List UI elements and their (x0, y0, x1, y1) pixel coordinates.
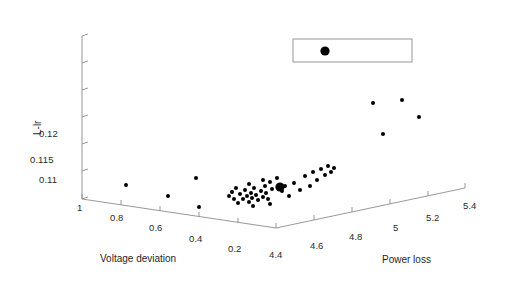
data-point (247, 182, 251, 186)
data-point (232, 197, 236, 201)
data-point (227, 194, 231, 198)
data-point (332, 166, 336, 170)
x-tick-label-3: 0.4 (189, 233, 203, 244)
data-point (250, 196, 254, 200)
y-tick-label-5: 5.4 (463, 200, 477, 211)
data-point (243, 188, 247, 192)
data-point-group (124, 98, 421, 209)
data-point (247, 200, 251, 204)
data-point (268, 202, 272, 206)
y-tick-label-0: 4.4 (269, 249, 283, 260)
y-tick-label-2: 4.8 (349, 231, 363, 242)
z-tick-label-2: 0.11 (39, 174, 57, 185)
data-point (287, 194, 291, 198)
data-point (236, 201, 240, 205)
data-point (303, 174, 307, 178)
data-point (238, 192, 242, 196)
axis-ticks (82, 34, 465, 228)
data-point (292, 181, 296, 185)
data-point (400, 98, 404, 102)
power-loss-axis-title: Power loss (382, 254, 431, 265)
data-point (266, 197, 270, 201)
l-index-axis-title: L-lr (32, 121, 43, 135)
data-point (194, 176, 198, 180)
data-point (249, 191, 253, 195)
y-tick-label-3: 5 (393, 222, 398, 233)
data-point (264, 191, 268, 195)
data-point (124, 183, 128, 187)
data-point (261, 178, 265, 182)
legend-marker (320, 46, 329, 55)
z-tick-label-1: 0.115 (30, 154, 54, 165)
data-point (166, 194, 170, 198)
x-tick-label-0: 1 (77, 202, 82, 213)
plot-canvas (0, 0, 509, 297)
data-point (371, 101, 375, 105)
data-point (256, 198, 260, 202)
data-point (329, 170, 333, 174)
data-point (270, 187, 274, 191)
data-point (251, 204, 255, 208)
data-point (197, 205, 201, 209)
data-point (319, 167, 323, 171)
data-point (298, 188, 302, 192)
data-point (263, 184, 267, 188)
voltage-deviation-axis-title: Voltage deviation (100, 253, 176, 264)
x-tick-label-1: 0.8 (110, 212, 124, 223)
data-point (245, 194, 249, 198)
data-point (230, 190, 234, 194)
data-point (417, 115, 421, 119)
data-point (308, 184, 312, 188)
x-tick-label-4: 0.2 (228, 243, 242, 254)
axis-lines (82, 36, 465, 228)
data-point (268, 180, 272, 184)
data-point (381, 132, 385, 136)
data-point (254, 193, 258, 197)
data-point (261, 195, 265, 199)
legend-box (293, 39, 412, 62)
data-point (252, 186, 256, 190)
data-point (234, 186, 238, 190)
data-point (311, 170, 315, 174)
data-point (326, 164, 330, 168)
y-tick-label-4: 5.2 (426, 212, 440, 223)
data-point (275, 182, 284, 191)
data-point (315, 178, 319, 182)
y-tick-label-1: 4.6 (310, 240, 324, 251)
data-point (259, 189, 263, 193)
x-tick-label-2: 0.6 (149, 222, 163, 233)
scatter-plot-figure: 0.12 0.115 0.11 1 0.8 0.6 0.4 0.2 4.4 4.… (0, 0, 509, 297)
data-point (275, 176, 279, 180)
data-point (241, 197, 245, 201)
data-point (323, 173, 327, 177)
